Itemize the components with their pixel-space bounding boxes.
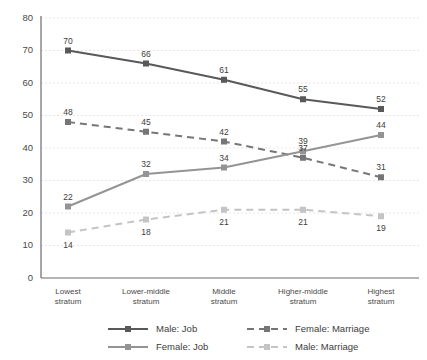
series-marker	[300, 207, 306, 213]
data-point-label: 48	[63, 107, 73, 117]
legend-marker-swatch	[264, 326, 270, 332]
data-point-label: 61	[219, 65, 229, 75]
x-axis-tick-label: Higheststratum	[367, 287, 395, 306]
series-marker	[143, 217, 149, 223]
chart-legend[interactable]: Male: JobFemale: MarriageFemale: JobMale…	[108, 323, 369, 352]
y-axis-tick-label: 0	[28, 272, 33, 283]
line-chart: 01020304050607080 LoweststratumLower-mid…	[0, 0, 427, 360]
legend-marker-swatch	[125, 344, 131, 350]
x-axis-tick-label: Lower-middlestratum	[122, 287, 171, 306]
y-axis-tick-label: 20	[22, 207, 33, 218]
legend-marker-swatch	[125, 326, 131, 332]
x-axis-tick-labels: LoweststratumLower-middlestratumMiddlest…	[55, 287, 396, 306]
legend-item-1[interactable]: Female: Marriage	[247, 323, 369, 334]
data-point-label: 44	[376, 120, 386, 130]
legend-label: Female: Marriage	[295, 323, 369, 334]
y-axis-tick-label: 70	[22, 44, 33, 55]
data-point-label: 66	[141, 49, 151, 59]
legend-label: Male: Marriage	[295, 341, 358, 352]
series-marker	[65, 119, 71, 125]
data-point-label: 55	[298, 84, 308, 94]
series-marker	[221, 77, 227, 83]
data-point-label: 70	[63, 36, 73, 46]
data-point-label: 21	[298, 217, 308, 227]
legend-label: Male: Job	[156, 323, 197, 334]
y-axis-tick-label: 30	[22, 174, 33, 185]
series-marker	[378, 132, 384, 138]
data-point-label: 31	[376, 162, 386, 172]
y-axis-tick-label: 50	[22, 109, 33, 120]
data-point-label: 14	[63, 240, 73, 250]
y-axis-tick-label: 60	[22, 77, 33, 88]
series-marker	[221, 165, 227, 171]
data-point-label: 22	[63, 192, 73, 202]
data-point-label: 39	[298, 136, 308, 146]
data-point-label: 32	[141, 159, 151, 169]
legend-item-2[interactable]: Female: Job	[108, 341, 208, 352]
y-axis-tick-label: 80	[22, 12, 33, 23]
series-marker	[300, 155, 306, 161]
y-axis-tick-label: 40	[22, 142, 33, 153]
x-axis-tick-label: Middlestratum	[211, 287, 238, 306]
legend-marker-swatch	[264, 344, 270, 350]
series-marker	[65, 230, 71, 236]
legend-label: Female: Job	[156, 341, 208, 352]
data-point-label: 42	[219, 127, 229, 137]
legend-item-3[interactable]: Male: Marriage	[247, 341, 358, 352]
series-marker	[378, 213, 384, 219]
legend-item-0[interactable]: Male: Job	[108, 323, 197, 334]
gridlines	[41, 18, 419, 246]
series-marker	[378, 174, 384, 180]
y-axis-tick-label: 10	[22, 239, 33, 250]
series-marker	[143, 129, 149, 135]
series-marker	[143, 171, 149, 177]
series-marker	[143, 61, 149, 67]
data-point-label: 19	[376, 223, 386, 233]
series-marker	[221, 139, 227, 145]
x-axis-tick-label: Higher-middlestratum	[278, 287, 328, 306]
series-marker	[65, 48, 71, 54]
chart-canvas: 01020304050607080 LoweststratumLower-mid…	[0, 0, 427, 360]
series-marker	[65, 204, 71, 210]
data-point-label: 34	[219, 153, 229, 163]
data-point-label: 45	[141, 117, 151, 127]
data-point-label: 21	[219, 217, 229, 227]
data-point-label: 52	[376, 94, 386, 104]
series-marker	[378, 106, 384, 112]
y-axis-tick-labels: 01020304050607080	[22, 12, 33, 283]
series-markers	[65, 48, 384, 236]
series-marker	[221, 207, 227, 213]
data-point-label: 18	[141, 227, 151, 237]
x-axis-tick-label: Loweststratum	[55, 287, 82, 306]
series-line-2	[68, 135, 381, 207]
series-marker	[300, 96, 306, 102]
